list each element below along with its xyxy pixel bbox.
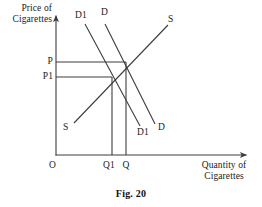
y-axis-title: Price of Cigarettes <box>0 3 52 24</box>
x-axis-title-line2: Cigarettes <box>186 171 262 182</box>
price-tick-p1: P1 <box>26 71 53 82</box>
curve-label-d-top: D <box>101 7 108 18</box>
quantity-tick-q1: Q1 <box>100 160 118 171</box>
x-axis-title-line1: Quantity of <box>186 160 262 171</box>
supply-curve-s <box>74 25 168 123</box>
curve-label-s-top: S <box>168 14 173 25</box>
price-tick-p: P <box>28 56 53 67</box>
curve-label-s-bottom: S <box>63 122 68 133</box>
curve-label-d1-top: D1 <box>75 10 87 21</box>
quantity-tick-q: Q <box>119 160 133 171</box>
figure-caption: Fig. 20 <box>0 188 262 199</box>
x-axis-title: Quantity of Cigarettes <box>186 160 262 181</box>
curve-label-d1-bottom: D1 <box>137 127 149 138</box>
figure-container: Price of Cigarettes Quantity of Cigarett… <box>0 0 262 207</box>
y-axis-title-line2: Cigarettes <box>0 14 52 25</box>
origin-label: O <box>49 160 56 171</box>
y-axis-title-line1: Price of <box>0 3 52 14</box>
curve-label-d-bottom: D <box>158 122 165 133</box>
